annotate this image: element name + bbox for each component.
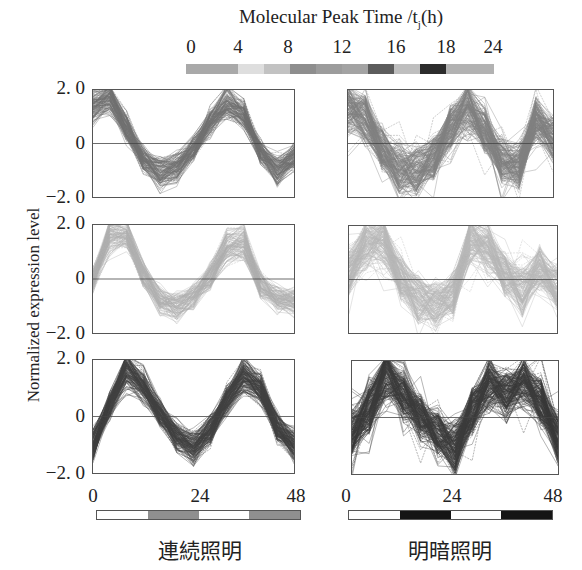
- dark-period: [400, 511, 451, 519]
- colorbar-title-unit: (h): [421, 6, 443, 27]
- colorbar-segment: [342, 64, 368, 74]
- condition-label-continuous: 連続照明: [130, 534, 270, 564]
- y-tick-label: −2. 0: [25, 462, 85, 484]
- x-tick-48-continuous: 48: [287, 485, 306, 507]
- condition-label-light-dark: 明暗照明: [380, 534, 520, 564]
- colorbar-segment: [264, 64, 290, 74]
- panel-row1-continuous: [92, 89, 295, 198]
- colorbar-tick: 8: [283, 36, 293, 58]
- colorbar-tick: 16: [387, 36, 406, 58]
- colorbar-title-text: Molecular Peak Time /t: [239, 6, 418, 27]
- y-tick-label: 2. 0: [25, 77, 85, 99]
- y-tick-label: 0: [25, 267, 85, 289]
- colorbar-segment: [368, 64, 394, 74]
- colorbar-title: Molecular Peak Time /tj(h): [186, 6, 496, 30]
- colorbar-tick: 24: [484, 36, 503, 58]
- colorbar-tick: 12: [333, 36, 352, 58]
- x-tick-24-light-dark: 24: [443, 485, 462, 507]
- x-tick-0-continuous: 0: [88, 485, 98, 507]
- y-tick-label: 2. 0: [25, 212, 85, 234]
- x-tick-48-light-dark: 48: [544, 485, 563, 507]
- panel-row2-light-dark: [348, 225, 558, 334]
- panel-row3-light-dark: [351, 360, 559, 475]
- y-tick-label: 2. 0: [25, 347, 85, 369]
- y-tick-label: 0: [25, 132, 85, 154]
- light-period: [451, 511, 502, 519]
- colorbar-segment: [186, 64, 238, 74]
- y-tick-label: −2. 0: [25, 186, 85, 208]
- x-tick-0-light-dark: 0: [341, 485, 351, 507]
- colorbar-segment: [394, 64, 420, 74]
- expression-traces: [93, 225, 294, 324]
- light-period: [199, 511, 250, 519]
- colorbar-segment: [316, 64, 342, 74]
- expression-traces: [93, 360, 294, 467]
- colorbar-segment: [420, 64, 446, 74]
- light-period: [349, 511, 400, 519]
- colorbar-tick: 18: [437, 36, 456, 58]
- colorbar-segment: [446, 64, 494, 74]
- dark-period: [148, 511, 199, 519]
- dark-period: [501, 511, 552, 519]
- panel-row2-continuous: [92, 224, 295, 334]
- colorbar: [186, 64, 494, 74]
- panel-row3-continuous: [92, 359, 295, 474]
- y-tick-label: −2. 0: [25, 322, 85, 344]
- light-schedule-bar-light-dark: [348, 510, 553, 520]
- x-tick-24-continuous: 24: [191, 485, 210, 507]
- expression-traces: [93, 90, 294, 194]
- light-schedule-bar-continuous: [96, 510, 301, 520]
- colorbar-segment: [238, 64, 264, 74]
- colorbar-tick: 4: [233, 36, 243, 58]
- light-period: [97, 511, 148, 519]
- colorbar-segment: [290, 64, 316, 74]
- panel-row1-light-dark: [347, 89, 554, 198]
- y-tick-label: 0: [25, 405, 85, 427]
- colorbar-tick: 0: [186, 36, 196, 58]
- dark-period: [249, 511, 300, 519]
